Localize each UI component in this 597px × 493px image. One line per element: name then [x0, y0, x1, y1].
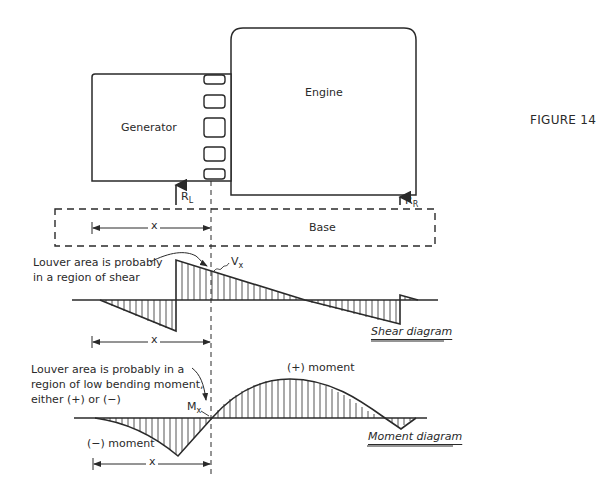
vx-label: Vx — [231, 255, 243, 272]
reaction-right-label: RR — [405, 194, 418, 211]
shear-annotation-line2: in a region of shear — [33, 271, 140, 284]
shear-hatching — [106, 262, 410, 330]
generator-label: Generator — [121, 121, 177, 134]
moment-annotation-line2: region of low bending moment, — [31, 378, 204, 391]
shear-diagram-caption: Shear diagram — [371, 325, 452, 338]
vx-subscript: x — [239, 261, 244, 270]
moment-annotation-line1: Louver area is probably in a — [31, 363, 184, 376]
reaction-right-subscript: R — [413, 200, 419, 209]
reaction-left-label: RL — [181, 190, 193, 207]
engine-outline — [231, 28, 416, 195]
negative-moment-label: (−) moment — [87, 437, 155, 450]
reaction-right-symbol: R — [405, 194, 413, 207]
dimension-x-label-moment: x — [149, 455, 156, 468]
vx-symbol: V — [231, 255, 239, 268]
mx-symbol: M — [187, 400, 197, 413]
shear-annotation-line1: Louver area is probably — [33, 256, 163, 269]
engine-label: Engine — [305, 86, 343, 99]
dimension-x-label-base: x — [151, 219, 158, 232]
mx-label: Mx — [187, 400, 201, 417]
positive-moment-label: (+) moment — [287, 361, 355, 374]
mx-leader — [201, 411, 209, 416]
vx-leader — [214, 263, 229, 271]
moment-diagram-caption: Moment diagram — [368, 430, 462, 443]
beam-diagram-canvas — [0, 0, 597, 493]
reaction-left-symbol: R — [181, 190, 189, 203]
moment-annotation-line3: either (+) or (−) — [31, 393, 121, 406]
reaction-left-subscript: L — [189, 196, 193, 205]
mx-subscript: x — [197, 406, 202, 415]
figure-label: FIGURE 14 — [530, 114, 596, 127]
dimension-x-label-shear: x — [151, 333, 158, 346]
base-label: Base — [309, 221, 336, 234]
